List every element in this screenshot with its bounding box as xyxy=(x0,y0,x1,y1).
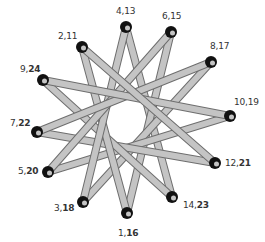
label-first-number: 2, xyxy=(58,31,66,41)
node-highlight xyxy=(82,201,87,206)
star-polygon-diagram: 4,136,158,1710,1912,2114,231,163,185,207… xyxy=(0,0,265,242)
node-highlight xyxy=(229,115,234,120)
label-first-number: 6, xyxy=(162,11,170,21)
label-first-number: 9, xyxy=(20,64,28,74)
label-second-number: 19 xyxy=(248,97,259,107)
node-highlight xyxy=(171,196,176,201)
label-second-number: 24 xyxy=(28,64,40,74)
node-label: 6,15 xyxy=(162,11,181,21)
label-first-number: 14, xyxy=(183,200,197,210)
label-first-number: 12, xyxy=(225,158,239,168)
node-highlight xyxy=(126,212,131,217)
label-first-number: 1, xyxy=(118,228,126,238)
label-second-number: 16 xyxy=(126,228,138,238)
node-highlight xyxy=(47,171,52,176)
node-label: 12,21 xyxy=(225,158,251,168)
node-highlight xyxy=(170,31,175,36)
node-highlight xyxy=(210,61,215,66)
label-second-number: 17 xyxy=(218,41,229,51)
label-second-number: 15 xyxy=(170,11,181,21)
node-label: 3,18 xyxy=(54,203,74,213)
label-first-number: 3, xyxy=(54,203,62,213)
node-label: 10,19 xyxy=(234,97,259,107)
node-label: 9,24 xyxy=(20,64,40,74)
connection-bars xyxy=(0,0,265,242)
label-second-number: 21 xyxy=(239,158,251,168)
node-label: 1,16 xyxy=(118,228,138,238)
label-second-number: 18 xyxy=(62,203,74,213)
label-first-number: 5, xyxy=(18,166,26,176)
label-second-number: 22 xyxy=(18,118,30,128)
node-label: 4,13 xyxy=(116,6,135,16)
label-second-number: 11 xyxy=(66,31,77,41)
label-second-number: 20 xyxy=(26,166,38,176)
node-highlight xyxy=(36,131,41,136)
label-first-number: 8, xyxy=(210,41,218,51)
node-highlight xyxy=(81,46,86,51)
label-second-number: 23 xyxy=(197,200,209,210)
label-first-number: 4, xyxy=(116,6,124,16)
node-label: 2,11 xyxy=(58,31,77,41)
label-second-number: 13 xyxy=(124,6,135,16)
node-label: 7,22 xyxy=(10,118,30,128)
node-label: 8,17 xyxy=(210,41,229,51)
node-label: 5,20 xyxy=(18,166,38,176)
label-first-number: 7, xyxy=(10,118,18,128)
node-highlight xyxy=(42,79,47,84)
node-highlight xyxy=(214,162,219,167)
node-highlight xyxy=(125,26,130,31)
node-label: 14,23 xyxy=(183,200,209,210)
label-first-number: 10, xyxy=(234,97,248,107)
